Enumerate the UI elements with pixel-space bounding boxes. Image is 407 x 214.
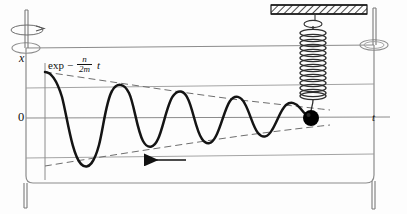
left-axle-rod-bottom [24, 183, 27, 208]
formula-exp: exp [48, 59, 64, 71]
axis-origin-label: 0 [18, 111, 24, 124]
figure-canvas [0, 0, 407, 214]
hatched-ceiling-support [271, 5, 367, 28]
axis-label-x: x [19, 52, 24, 64]
formula-fraction: n 2m [77, 55, 92, 75]
formula-minus: − [66, 59, 74, 71]
formula-variable: t [95, 59, 100, 71]
envelope-formula: exp − n 2m t [48, 55, 100, 75]
formula-denominator: 2m [77, 64, 92, 74]
right-axle-rod-bottom [372, 181, 375, 209]
damped-oscillation-figure: x 0 t exp − n 2m t [0, 0, 407, 214]
coil-spring [300, 26, 326, 112]
formula-numerator: n [80, 55, 89, 64]
oscillating-mass [303, 110, 319, 126]
axis-label-t: t [372, 112, 375, 123]
